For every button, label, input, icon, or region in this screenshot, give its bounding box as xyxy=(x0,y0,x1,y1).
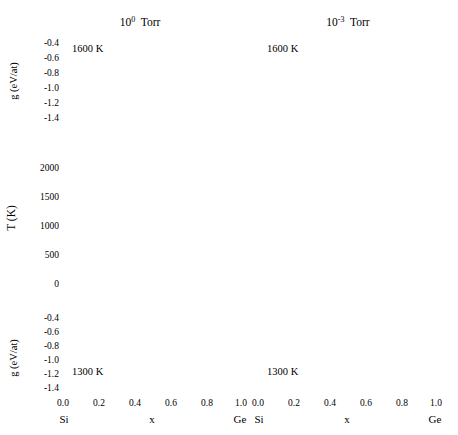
title-right-exp: -3 xyxy=(338,15,345,24)
ylabel-g-bottom: g (eV/at) xyxy=(8,339,20,377)
xlabel-left-si: Si xyxy=(59,413,68,425)
xtick-left-2: 0.4 xyxy=(129,398,141,408)
isotherm-label-top-right: 1600 K xyxy=(267,43,299,54)
Ttick-3: 1500 xyxy=(40,192,59,202)
svg-text:100 Torr: 100 Torr xyxy=(120,15,161,28)
gtick-bl-0: -0.4 xyxy=(44,313,59,323)
xlabel-left-ge: Ge xyxy=(234,413,247,425)
title-left: 100 Torr xyxy=(120,15,161,28)
figure-root: 100 Torr 10-3 Torr g (eV/at) T (K) g (eV… xyxy=(0,0,458,435)
xtick-left-3: 0.6 xyxy=(165,398,177,408)
xtick-right-5: 1.0 xyxy=(430,398,442,408)
xtick-left-4: 0.8 xyxy=(201,398,213,408)
gtick-tl-0: -0.4 xyxy=(44,38,59,48)
xtick-right-0: 0.0 xyxy=(252,398,264,408)
gtick-bl-4: -1.2 xyxy=(44,369,59,379)
xlabel-right-si: Si xyxy=(254,413,263,425)
xtick-left-1: 0.2 xyxy=(93,398,105,408)
title-right-unit: Torr xyxy=(350,16,370,28)
Ttick-2: 1000 xyxy=(40,221,59,231)
figure-background xyxy=(0,0,458,435)
gtick-bl-2: -0.8 xyxy=(44,341,59,351)
Ttick-1: 500 xyxy=(45,250,60,260)
ylabel-g-top: g (eV/at) xyxy=(8,62,20,100)
gtick-bl-5: -1.4 xyxy=(44,383,59,393)
Ttick-0: 0 xyxy=(54,279,59,289)
gtick-tl-2: -0.8 xyxy=(44,68,59,78)
xtick-right-1: 0.2 xyxy=(288,398,300,408)
title-left-base: 10 xyxy=(120,16,132,28)
title-left-unit: Torr xyxy=(141,16,161,28)
xtick-right-4: 0.8 xyxy=(396,398,408,408)
xtick-right-3: 0.6 xyxy=(360,398,372,408)
gtick-tl-4: -1.2 xyxy=(44,98,59,108)
ylabel-T: T (K) xyxy=(5,205,18,231)
Ttick-4: 2000 xyxy=(40,163,59,173)
gtick-bl-3: -1.0 xyxy=(44,355,59,365)
title-right-base: 10 xyxy=(326,16,338,28)
isotherm-label-bottom-right: 1300 K xyxy=(267,366,299,377)
xtick-right-2: 0.4 xyxy=(324,398,336,408)
xlabel-left-x: x xyxy=(149,413,155,425)
xtick-left-5: 1.0 xyxy=(235,398,247,408)
isotherm-label-top-left: 1600 K xyxy=(72,43,104,54)
isotherm-label-bottom-left: 1300 K xyxy=(72,366,104,377)
title-right: 10-3 Torr xyxy=(326,15,370,28)
xlabel-right-ge: Ge xyxy=(429,413,442,425)
gtick-tl-1: -0.6 xyxy=(44,53,59,63)
gtick-tl-5: -1.4 xyxy=(44,113,59,123)
figure-canvas: 100 Torr 10-3 Torr g (eV/at) T (K) g (eV… xyxy=(0,0,458,435)
xlabel-right-x: x xyxy=(344,413,350,425)
svg-text:10-3 Torr: 10-3 Torr xyxy=(326,15,370,28)
xtick-left-0: 0.0 xyxy=(57,398,69,408)
gtick-bl-1: -0.6 xyxy=(44,327,59,337)
gtick-tl-3: -1.0 xyxy=(44,83,59,93)
